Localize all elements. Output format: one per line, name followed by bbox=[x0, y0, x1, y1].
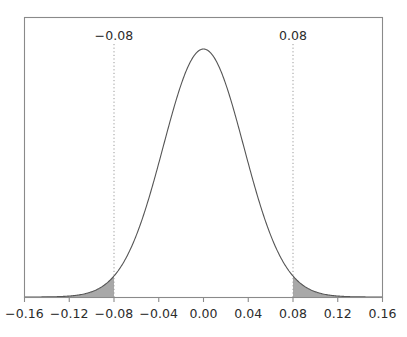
plot-panel-background bbox=[25, 18, 383, 298]
plot-canvas bbox=[0, 0, 407, 337]
x-axis-tick-label: 0.12 bbox=[324, 306, 352, 321]
x-axis-tick-label: −0.08 bbox=[95, 306, 134, 321]
x-axis-tick-label: 0.04 bbox=[234, 306, 262, 321]
normal-distribution-figure: −0.16−0.12−0.08−0.040.000.040.080.120.16… bbox=[0, 0, 407, 337]
x-axis-tick-label: −0.12 bbox=[50, 306, 89, 321]
x-axis-tick-label: 0.00 bbox=[189, 306, 217, 321]
x-axis-tick-label: 0.16 bbox=[368, 306, 396, 321]
x-axis-tick-label: −0.04 bbox=[139, 306, 178, 321]
x-axis-tick-label: −0.16 bbox=[5, 306, 44, 321]
x-axis-tick-label: 0.08 bbox=[279, 306, 307, 321]
lower-critical-value-label: −0.08 bbox=[95, 28, 134, 43]
upper-critical-value-label: 0.08 bbox=[279, 28, 307, 43]
